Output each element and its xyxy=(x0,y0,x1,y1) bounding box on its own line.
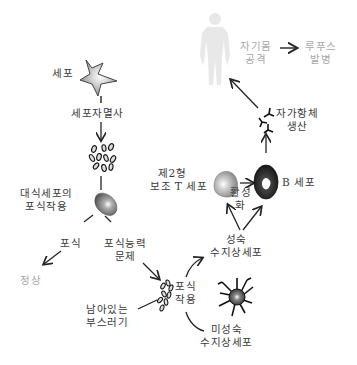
mature-dc-label: 성숙 수지상세포 xyxy=(210,233,263,259)
antibody-icon xyxy=(259,108,274,133)
autoantibody-label: 자가항체 생산 xyxy=(276,107,318,133)
phagocytosis2-label: 포식 작용 xyxy=(175,280,196,306)
apoptosis-label: 세포자멸사 xyxy=(71,107,124,120)
debris-label: 남아있는 부스러기 xyxy=(86,303,128,329)
apoptotic-fragments-icon xyxy=(88,143,116,172)
lupus-label: 루푸스 발병 xyxy=(305,40,337,66)
th2-label: 제2형 보조 T 세포 xyxy=(150,167,207,193)
normal-label: 정상 xyxy=(20,274,41,287)
self-attack-label: 자기몸 공격 xyxy=(240,40,272,66)
immature-dc-label: 미성숙 수지상세포 xyxy=(200,323,253,349)
phagocytosis-ok-label: 포식 xyxy=(60,237,81,250)
b-cell-label: B 세포 xyxy=(282,176,315,189)
phagocytosis-problem-label: 포식능력 문제 xyxy=(104,237,146,263)
activation-label: 활성 화 xyxy=(230,186,251,212)
macrophage-icon xyxy=(95,193,117,215)
debris-fragments-icon xyxy=(157,279,174,311)
macrophage-label: 대식세포의 포식작용 xyxy=(20,187,73,213)
cell-label: 세포 xyxy=(52,67,73,80)
human-body-icon xyxy=(200,13,230,85)
cell-icon xyxy=(80,60,117,96)
